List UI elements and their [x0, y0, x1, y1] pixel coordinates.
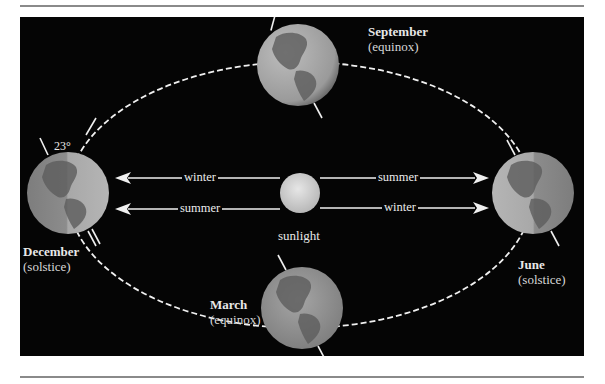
june-type: (solstice)	[518, 272, 566, 287]
label-june: June (solstice)	[518, 257, 566, 287]
september-name: September	[368, 24, 428, 39]
top-rule	[20, 5, 584, 7]
diagram-panel: September (equinox) December (solstice) …	[20, 17, 584, 356]
december-name: December	[23, 244, 79, 259]
label-march: March (equinox)	[210, 297, 261, 327]
tilt-angle-label: 23°	[54, 139, 71, 154]
earth-june	[492, 140, 574, 246]
arrow-label-right-bottom: winter	[382, 201, 418, 214]
orbit-scene	[20, 17, 584, 356]
arrow-label-left-top: winter	[182, 171, 218, 184]
earth-september	[257, 17, 339, 118]
sun-label: sunlight	[278, 228, 320, 243]
september-type: (equinox)	[368, 39, 428, 54]
arrow-label-right-top: summer	[376, 171, 420, 184]
label-december: December (solstice)	[23, 244, 79, 274]
march-type: (equinox)	[210, 312, 261, 327]
arrow-label-left-bottom: summer	[178, 202, 222, 215]
bottom-rule	[20, 376, 584, 378]
label-september: September (equinox)	[368, 24, 428, 54]
march-name: March	[210, 297, 261, 312]
earth-march	[261, 255, 343, 356]
june-name: June	[518, 257, 566, 272]
sun	[280, 173, 320, 213]
december-type: (solstice)	[23, 259, 79, 274]
earth-december	[27, 118, 109, 246]
